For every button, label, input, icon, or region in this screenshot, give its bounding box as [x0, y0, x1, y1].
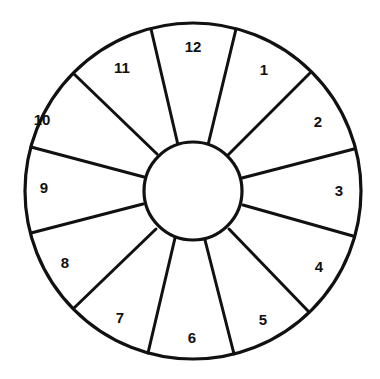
spoke-3-4: [243, 205, 353, 236]
segment-label-3: 3: [335, 182, 343, 199]
spoke-2-3: [242, 149, 354, 178]
spoke-8-9: [31, 204, 143, 233]
segment-label-6: 6: [188, 329, 196, 346]
spoke-5-6: [205, 240, 234, 354]
segment-label-10: 10: [34, 111, 51, 128]
spoke-7-8: [74, 229, 156, 308]
segment-label-8: 8: [61, 254, 69, 271]
spoke-10-11: [74, 74, 157, 154]
spoke-4-5: [229, 229, 309, 312]
segment-label-2: 2: [314, 113, 322, 130]
segment-wheel-diagram: 121234567891011: [0, 0, 380, 379]
spoke-1-2: [228, 73, 310, 155]
spoke-9-10: [31, 147, 144, 177]
segment-label-9: 9: [40, 179, 48, 196]
segment-label-4: 4: [315, 258, 324, 275]
spoke-11-12: [151, 29, 178, 145]
spoke-12-1: [208, 29, 236, 145]
center-circle: [144, 142, 242, 240]
segment-label-12: 12: [185, 38, 202, 55]
segment-label-11: 11: [114, 59, 130, 76]
segment-label-1: 1: [260, 61, 268, 78]
spoke-6-7: [148, 238, 175, 353]
segment-label-5: 5: [259, 311, 267, 328]
segment-label-7: 7: [116, 309, 124, 326]
